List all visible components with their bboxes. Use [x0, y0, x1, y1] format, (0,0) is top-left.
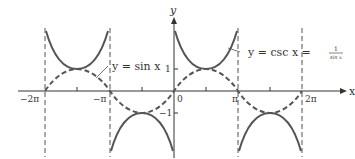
- y-axis-arrow-icon: [171, 17, 177, 24]
- sin-leader: [96, 66, 108, 78]
- csc-branch: [46, 31, 108, 69]
- csc-sin-graph: y x −2π −π 0 π 2π 1 −1 y = sin x y = csc…: [0, 0, 355, 159]
- tick-label-neg-one: −1: [159, 108, 172, 118]
- tick-label-neg2pi: −2π: [20, 94, 39, 104]
- csc-branch: [239, 113, 301, 151]
- y-axis-label: y: [169, 4, 177, 17]
- csc-branch: [111, 113, 173, 151]
- x-axis-arrow-icon: [340, 88, 347, 94]
- tick-label-zero: 0: [177, 94, 183, 104]
- tick-label-2pi: 2π: [305, 94, 317, 104]
- tick-label-negpi: −π: [93, 94, 107, 104]
- sin-label: y = sin x: [111, 60, 161, 73]
- tick-label-one: 1: [165, 64, 171, 74]
- tick-label-pi: π: [232, 94, 238, 104]
- csc-label: y = csc x =: [247, 46, 311, 59]
- x-axis-label: x: [349, 85, 355, 98]
- csc-frac-den: sin x: [330, 54, 342, 60]
- csc-branch: [175, 31, 237, 69]
- csc-frac-num: 1: [334, 45, 338, 52]
